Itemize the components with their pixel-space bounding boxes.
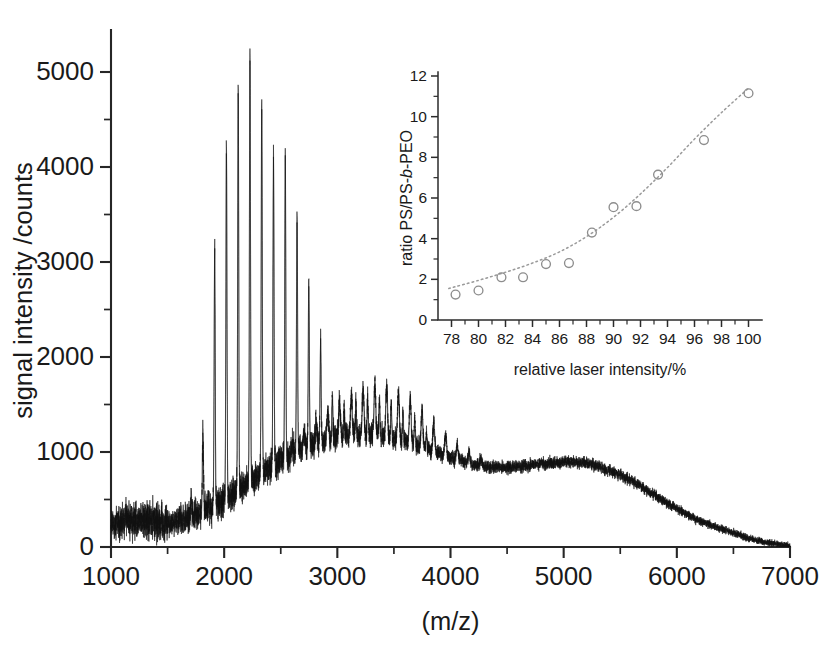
mass-spectrum-figure: 0100020003000400050001000200030004000500… bbox=[0, 0, 823, 646]
main-x-tick-label: 7000 bbox=[761, 561, 819, 591]
inset-data-point bbox=[542, 260, 551, 269]
inset-data-point bbox=[519, 273, 528, 282]
inset-y-axis-title-part: ratio PS/PS- bbox=[398, 178, 415, 266]
inset-data-point bbox=[474, 286, 483, 295]
inset-y-axis-title: ratio PS/PS-b-PEO bbox=[398, 130, 415, 266]
figure-root: 0100020003000400050001000200030004000500… bbox=[0, 0, 823, 646]
inset-x-tick-label: 84 bbox=[524, 330, 542, 347]
main-spectrum-trace bbox=[111, 49, 790, 547]
main-y-tick-label: 1000 bbox=[36, 436, 94, 466]
main-y-tick-label: 2000 bbox=[36, 341, 94, 371]
inset-y-axis-title-italic-part: b bbox=[398, 169, 415, 178]
inset-y-tick-label: 8 bbox=[418, 148, 427, 165]
inset-y-tick-label: 0 bbox=[418, 311, 427, 328]
main-y-tick-label: 3000 bbox=[36, 246, 94, 276]
inset-x-tick-label: 96 bbox=[686, 330, 703, 347]
inset-y-tick-label: 10 bbox=[410, 108, 428, 125]
inset-y-tick-label: 2 bbox=[418, 270, 427, 287]
main-x-tick-label: 3000 bbox=[308, 561, 366, 591]
main-y-ticks: 010002000300040005000 bbox=[36, 56, 111, 561]
inset-data-point bbox=[632, 202, 641, 211]
inset-x-tick-label: 86 bbox=[551, 330, 568, 347]
main-y-tick-label: 5000 bbox=[36, 56, 94, 86]
inset-data-point bbox=[744, 89, 753, 98]
main-x-tick-label: 4000 bbox=[422, 561, 480, 591]
inset-x-tick-label: 80 bbox=[470, 330, 488, 347]
inset-x-tick-label: 98 bbox=[713, 330, 730, 347]
main-x-tick-label: 1000 bbox=[82, 561, 140, 591]
inset-data-point bbox=[700, 136, 709, 145]
inset-x-axis-title: relative laser intensity/% bbox=[514, 361, 687, 378]
main-y-axis-title: signal intensity /counts bbox=[9, 162, 37, 419]
inset-axis-lines bbox=[438, 72, 762, 320]
main-x-axis-title: (m/z) bbox=[421, 607, 479, 635]
main-y-tick-label: 0 bbox=[80, 531, 94, 561]
inset-y-tick-label: 4 bbox=[418, 230, 427, 247]
main-x-ticks: 1000200030004000500060007000 bbox=[82, 547, 819, 591]
main-x-tick-label: 5000 bbox=[535, 561, 593, 591]
inset-y-tick-label: 6 bbox=[418, 189, 427, 206]
main-x-tick-label: 6000 bbox=[648, 561, 706, 591]
inset-x-tick-label: 82 bbox=[497, 330, 514, 347]
inset-x-tick-label: 90 bbox=[605, 330, 623, 347]
inset-x-tick-label: 94 bbox=[659, 330, 677, 347]
inset-x-tick-label: 92 bbox=[632, 330, 649, 347]
inset-data-point bbox=[609, 203, 618, 212]
main-x-tick-label: 2000 bbox=[195, 561, 253, 591]
inset-data-points bbox=[451, 89, 753, 299]
inset-x-tick-label: 100 bbox=[736, 330, 762, 347]
inset-x-ticks: 7880828486889092949698100 bbox=[443, 320, 762, 347]
inset-trend-curve bbox=[449, 88, 749, 288]
inset-y-axis-title-part: -PEO bbox=[398, 130, 415, 169]
inset-y-tick-label: 12 bbox=[410, 67, 427, 84]
inset-plot: 0246810127880828486889092949698100relati… bbox=[398, 67, 762, 378]
main-y-tick-label: 4000 bbox=[36, 151, 94, 181]
inset-x-tick-label: 88 bbox=[578, 330, 595, 347]
inset-x-tick-label: 78 bbox=[443, 330, 460, 347]
inset-data-point bbox=[451, 290, 460, 299]
inset-data-point bbox=[565, 259, 574, 268]
